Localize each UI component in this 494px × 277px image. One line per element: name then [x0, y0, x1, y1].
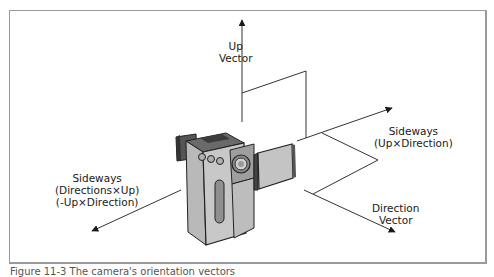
- sideways-left-label: Sideways (Directions×Up) (-Up×Direction): [55, 172, 139, 208]
- direction-vector-label: Direction Vector: [372, 202, 419, 226]
- direction-plane-guide: [313, 133, 378, 194]
- sideways-left-label-line2: (Directions×Up): [55, 184, 139, 196]
- direction-vector-label-line2: Vector: [372, 214, 419, 226]
- direction-vector-label-line1: Direction: [372, 202, 419, 214]
- sideways-left-label-line1: Sideways: [55, 172, 139, 184]
- camcorder-illustration: [176, 133, 296, 245]
- sideways-right-label-line1: Sideways: [374, 125, 453, 137]
- sideways-right-label-line2: (Up×Direction): [374, 137, 453, 149]
- up-vector-label: Up Vector: [219, 40, 252, 64]
- sideways-right-label: Sideways (Up×Direction): [374, 125, 453, 149]
- sideways-left-label-line3: (-Up×Direction): [55, 196, 139, 208]
- figure-caption: Figure 11-3 The camera's orientation vec…: [10, 266, 235, 277]
- up-vector-label-line2: Vector: [219, 52, 252, 64]
- up-vector-label-line1: Up: [219, 40, 252, 52]
- up-plane-guide: [242, 71, 306, 138]
